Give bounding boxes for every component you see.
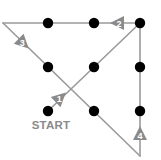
arrow-step-label: 2: [116, 19, 121, 29]
nine-dots-diagram: 1 2 3 4: [0, 0, 161, 160]
dot: [135, 106, 145, 116]
arrow-1: 1: [50, 87, 70, 107]
arrow-step-label: 3: [20, 38, 25, 48]
dot: [135, 18, 145, 28]
dot: [89, 62, 99, 72]
dot: [89, 106, 99, 116]
dot: [89, 18, 99, 28]
arrow-4: 4: [133, 126, 147, 141]
dot: [43, 106, 53, 116]
dot: [43, 18, 53, 28]
dot: [43, 62, 53, 72]
arrow-step-label: 4: [137, 131, 142, 141]
arrow-2: 2: [110, 16, 124, 30]
dot: [135, 62, 145, 72]
arrow-step-label: 1: [57, 94, 62, 104]
start-label: START: [31, 119, 71, 131]
